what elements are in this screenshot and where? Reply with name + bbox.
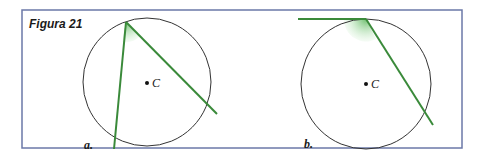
panel-label-a: a. [84,138,93,152]
figure-frame [22,10,462,148]
center-point-a [145,81,149,85]
center-point-b [364,82,368,86]
chord-b [366,19,433,125]
figure-21-diagram: Figura 21 C a. C b. [0,0,479,164]
angle-shade-b [344,19,376,41]
panel-b: C b. [298,19,433,151]
chord-a-left [114,22,126,149]
panel-a: C a. [83,18,217,152]
figure-title: Figura 21 [29,17,83,31]
chord-a-right [126,22,217,114]
center-label-a: C [152,76,161,90]
panel-label-b: b. [304,137,313,151]
center-label-b: C [371,77,380,91]
